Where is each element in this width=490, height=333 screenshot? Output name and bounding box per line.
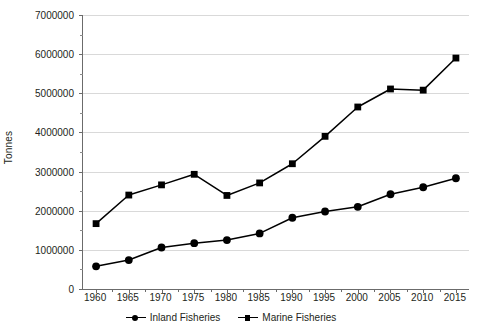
y-tick-label: 1000000 [35,244,74,255]
x-tick-label: 1980 [215,292,237,303]
y-tick-label: 2000000 [35,205,74,216]
y-tick-label: 3000000 [35,166,74,177]
data-point-circle [288,214,296,222]
x-tick-label: 1995 [313,292,335,303]
legend-marker-square-icon [238,313,258,323]
y-tick-mark [79,132,83,133]
y-minor-tick [80,113,83,114]
x-axis-tick-labels: 1960196519701975198019851990199520002005… [82,292,468,308]
y-tick-mark [79,289,83,290]
y-tick-mark [79,250,83,251]
y-tick-mark [79,54,83,55]
data-point-circle [223,236,231,244]
y-minor-tick [80,191,83,192]
y-tick-label: 7000000 [35,10,74,21]
data-point-square [354,104,361,111]
data-point-square [256,180,263,187]
data-point-circle [190,239,198,247]
y-tick-mark [79,93,83,94]
data-point-circle [354,203,362,211]
y-minor-tick [80,74,83,75]
series-line [96,178,456,266]
y-axis-title-label: Tonnes [4,131,15,164]
y-axis-title: Tonnes [0,0,18,295]
data-point-circle [158,244,166,252]
data-point-square [289,160,296,167]
y-tick-label: 4000000 [35,127,74,138]
data-point-circle [256,230,264,238]
legend-entry[interactable]: Inland Fisheries [126,312,221,323]
y-minor-tick [80,35,83,36]
data-point-circle [387,190,395,198]
data-point-circle [125,256,133,264]
x-tick-label: 1960 [84,292,106,303]
y-minor-tick [80,269,83,270]
plot-area [82,15,469,290]
y-tick-mark [79,172,83,173]
y-minor-tick [80,152,83,153]
legend-entry[interactable]: Marine Fisheries [238,312,336,323]
y-tick-label: 0 [68,284,74,295]
data-point-square [453,55,460,62]
legend-marker [245,315,251,321]
data-point-square [420,87,427,94]
y-axis-tick-labels: 0100000020000003000000400000050000006000… [18,0,80,295]
data-point-circle [452,174,460,182]
data-point-square [125,192,132,199]
legend-label: Marine Fisheries [262,312,336,323]
legend-label: Inland Fisheries [150,312,221,323]
x-tick-label: 1985 [248,292,270,303]
x-tick-label: 1970 [149,292,171,303]
legend-marker [132,315,138,321]
y-tick-mark [79,15,83,16]
data-point-square [322,133,329,140]
series-marine-fisheries [93,55,460,227]
data-point-square [224,192,231,199]
data-point-square [93,220,100,227]
legend-marker-circle-icon [126,313,146,323]
y-minor-tick [80,230,83,231]
x-tick-label: 2005 [378,292,400,303]
data-point-square [158,181,165,188]
cropped-text-sliver [481,185,490,325]
chart-legend: Inland FisheriesMarine Fisheries [0,312,462,323]
y-tick-label: 5000000 [35,88,74,99]
x-tick-label: 2000 [346,292,368,303]
x-tick-label: 2010 [411,292,433,303]
x-tick-label: 2015 [444,292,466,303]
data-point-circle [92,262,100,270]
y-tick-mark [79,211,83,212]
data-point-circle [321,208,329,216]
x-tick-label: 1990 [280,292,302,303]
series-line [96,58,456,224]
data-point-square [191,171,198,178]
x-tick-label: 1965 [117,292,139,303]
x-tick-label: 1975 [182,292,204,303]
line-chart: Tonnes 010000002000000300000040000005000… [0,0,490,333]
series-layer [83,15,469,289]
data-point-circle [419,183,427,191]
y-tick-label: 6000000 [35,49,74,60]
data-point-square [387,86,394,93]
